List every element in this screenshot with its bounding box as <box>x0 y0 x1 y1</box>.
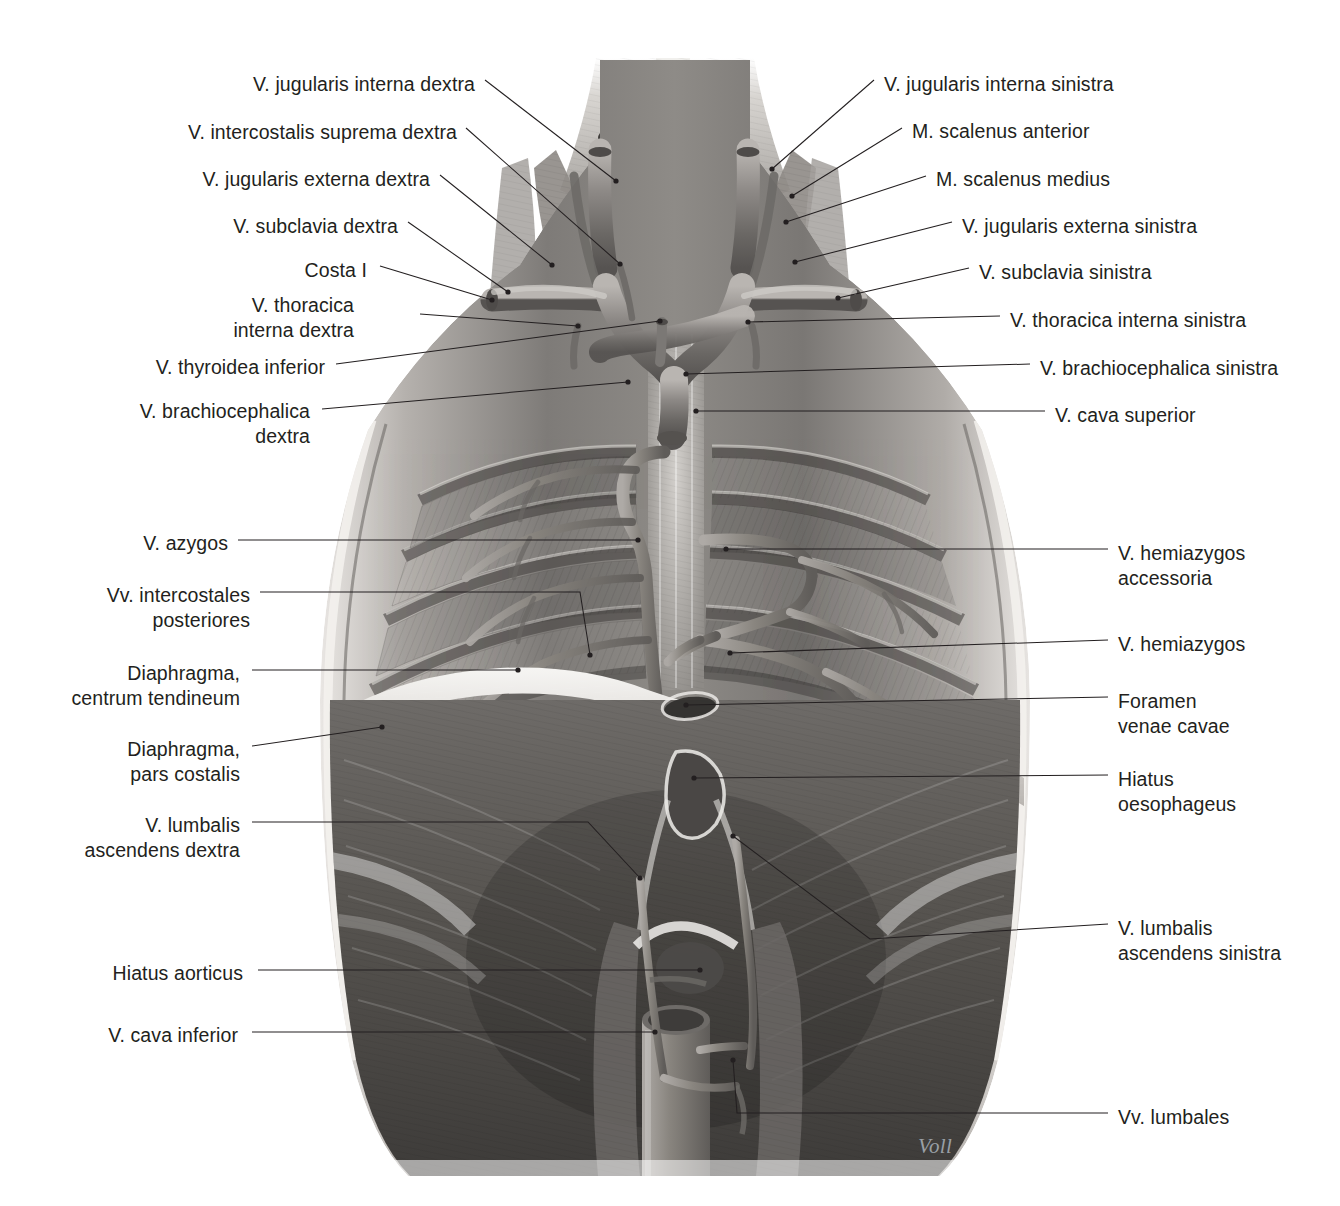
label-v-cava-inferior: V. cava inferior <box>108 1023 238 1048</box>
leader-m-scalenus-anterior-endpoint <box>789 193 794 198</box>
leader-vv-intercostales-posteriores-endpoint <box>587 652 592 657</box>
label-v-cava-superior: V. cava superior <box>1055 403 1196 428</box>
leader-v-lumbalis-ascendens-sinistra <box>733 836 1108 939</box>
leader-v-jugularis-interna-dextra <box>485 80 616 181</box>
label-costa-i: Costa I <box>305 258 367 283</box>
leader-hiatus-oesophageus-endpoint <box>691 775 696 780</box>
leader-diaphragma-pars-costalis <box>252 727 382 746</box>
leader-v-hemiazygos-accessoria-endpoint <box>723 546 728 551</box>
label-v-thyroidea-inferior: V. thyroidea inferior <box>156 355 325 380</box>
leader-diaphragma-pars-costalis-endpoint <box>379 724 384 729</box>
label-diaphragma-centrum-tendineum: Diaphragma, centrum tendineum <box>71 661 240 711</box>
label-v-subclavia-sinistra: V. subclavia sinistra <box>979 260 1152 285</box>
leader-v-hemiazygos <box>730 640 1108 653</box>
label-v-intercostalis-suprema-dextra: V. intercostalis suprema dextra <box>188 120 457 145</box>
leader-m-scalenus-medius-endpoint <box>783 219 788 224</box>
label-vv-intercostales-posteriores: Vv. intercostales posteriores <box>107 583 250 633</box>
leader-v-subclavia-sinistra <box>838 268 969 298</box>
label-diaphragma-pars-costalis: Diaphragma, pars costalis <box>127 737 240 787</box>
leader-v-jugularis-externa-sinistra <box>795 222 952 262</box>
leader-v-thyroidea-inferior-endpoint <box>657 318 662 323</box>
label-v-hemiazygos-accessoria: V. hemiazygos accessoria <box>1118 541 1245 591</box>
leader-v-thoracica-interna-dextra <box>420 314 578 326</box>
leader-v-subclavia-dextra <box>408 222 508 292</box>
leader-v-thoracica-interna-dextra-endpoint <box>575 323 580 328</box>
leader-v-lumbalis-ascendens-sinistra-endpoint <box>730 833 735 838</box>
label-m-scalenus-anterior: M. scalenus anterior <box>912 119 1090 144</box>
leader-vv-lumbales <box>733 1060 1108 1113</box>
leader-v-lumbalis-ascendens-dextra-endpoint <box>637 875 642 880</box>
leader-v-cava-superior-endpoint <box>693 408 698 413</box>
label-v-lumbalis-ascendens-sinistra: V. lumbalis ascendens sinistra <box>1118 916 1281 966</box>
leader-v-intercostalis-suprema-dextra <box>466 128 620 264</box>
leader-v-jugularis-externa-dextra-endpoint <box>549 262 554 267</box>
leader-vv-lumbales-endpoint <box>730 1057 735 1062</box>
leader-v-jugularis-interna-sinistra <box>772 80 874 169</box>
leader-v-intercostalis-suprema-dextra-endpoint <box>617 261 622 266</box>
leader-costa-i-endpoint <box>489 297 494 302</box>
leader-hiatus-oesophageus <box>694 775 1108 778</box>
label-foramen-venae-cavae: Foramen venae cavae <box>1118 689 1230 739</box>
label-m-scalenus-medius: M. scalenus medius <box>936 167 1110 192</box>
leader-v-thoracica-interna-sinistra <box>748 316 1000 322</box>
leader-foramen-venae-cavae <box>686 697 1108 705</box>
leader-v-subclavia-sinistra-endpoint <box>835 295 840 300</box>
leader-m-scalenus-anterior <box>792 128 902 196</box>
leader-v-subclavia-dextra-endpoint <box>505 289 510 294</box>
label-v-hemiazygos: V. hemiazygos <box>1118 632 1245 657</box>
label-v-jugularis-externa-dextra: V. jugularis externa dextra <box>203 167 430 192</box>
label-v-brachiocephalica-sinistra: V. brachiocephalica sinistra <box>1040 356 1278 381</box>
leader-v-jugularis-interna-sinistra-endpoint <box>769 166 774 171</box>
artist-signature: Voll <box>918 1134 952 1159</box>
leader-v-brachiocephalica-dextra-endpoint <box>625 379 630 384</box>
label-v-thoracica-interna-dextra: V. thoracica interna dextra <box>233 293 354 343</box>
leader-hiatus-aorticus-endpoint <box>697 967 702 972</box>
leader-v-lumbalis-ascendens-dextra <box>252 822 640 878</box>
label-v-jugularis-externa-sinistra: V. jugularis externa sinistra <box>962 214 1197 239</box>
leader-v-brachiocephalica-sinistra-endpoint <box>683 371 688 376</box>
anatomical-plate: V. jugularis interna dextraV. intercosta… <box>0 0 1340 1206</box>
label-vv-lumbales: Vv. lumbales <box>1118 1105 1229 1130</box>
leader-v-jugularis-interna-dextra-endpoint <box>613 178 618 183</box>
leader-v-brachiocephalica-sinistra <box>686 364 1030 374</box>
leader-diaphragma-centrum-tendineum-endpoint <box>515 667 520 672</box>
leader-foramen-venae-cavae-endpoint <box>683 702 688 707</box>
leader-v-thoracica-interna-sinistra-endpoint <box>745 319 750 324</box>
leader-v-cava-inferior-endpoint <box>652 1029 657 1034</box>
leader-m-scalenus-medius <box>786 176 926 222</box>
label-v-jugularis-interna-sinistra: V. jugularis interna sinistra <box>884 72 1114 97</box>
leader-v-jugularis-externa-sinistra-endpoint <box>792 259 797 264</box>
label-v-jugularis-interna-dextra: V. jugularis interna dextra <box>253 72 475 97</box>
label-hiatus-aorticus: Hiatus aorticus <box>113 961 243 986</box>
leader-v-thyroidea-inferior <box>336 321 660 364</box>
leader-v-hemiazygos-endpoint <box>727 650 732 655</box>
leader-v-brachiocephalica-dextra <box>322 382 628 409</box>
leader-costa-i <box>380 266 492 300</box>
label-v-subclavia-dextra: V. subclavia dextra <box>233 214 398 239</box>
label-v-thoracica-interna-sinistra: V. thoracica interna sinistra <box>1010 308 1246 333</box>
label-v-azygos: V. azygos <box>143 531 228 556</box>
leader-vv-intercostales-posteriores <box>260 592 590 655</box>
label-v-brachiocephalica-dextra: V. brachiocephalica dextra <box>140 399 310 449</box>
leader-v-azygos-endpoint <box>635 537 640 542</box>
label-v-lumbalis-ascendens-dextra: V. lumbalis ascendens dextra <box>85 813 241 863</box>
label-hiatus-oesophageus: Hiatus oesophageus <box>1118 767 1236 817</box>
